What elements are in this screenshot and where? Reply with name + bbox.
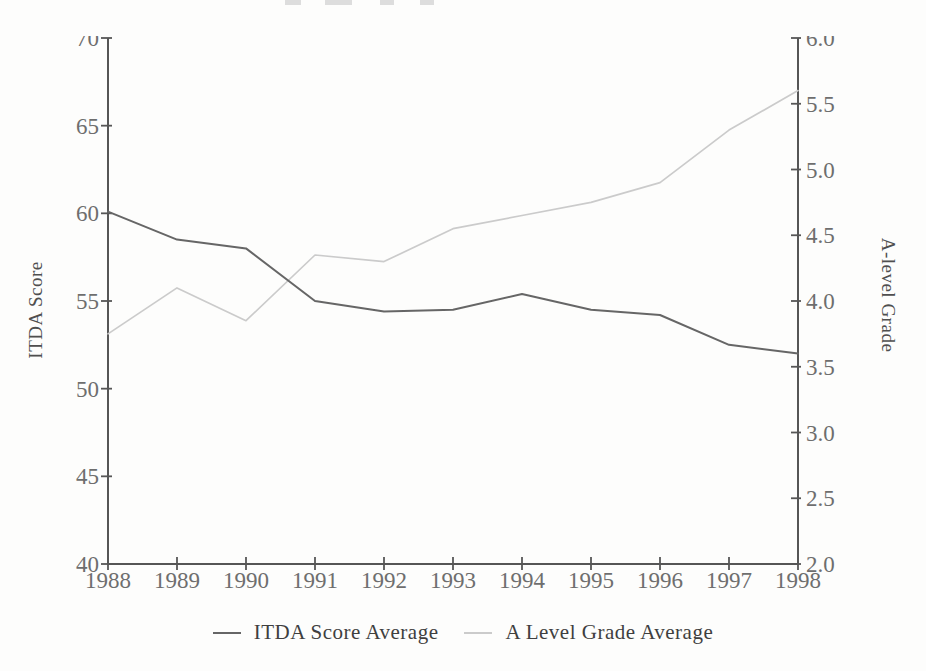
legend-entry-alevel: A Level Grade Average: [464, 620, 713, 645]
x-axis-tick-label: 1997: [706, 568, 752, 593]
right-axis-tick-label: 5.0: [806, 158, 835, 183]
right-axis-tick-label: 3.5: [806, 355, 835, 380]
left-axis-tick-label: 55: [76, 289, 99, 314]
itda-line-swatch: [213, 632, 241, 634]
right-axis-tick-label: 4.5: [806, 223, 835, 248]
x-axis-tick-label: 1995: [568, 568, 614, 593]
chart-legend: ITDA Score Average A Level Grade Average: [0, 620, 926, 645]
x-axis-tick-label: 1989: [154, 568, 200, 593]
dual-axis-line-chart: 706560555045406.05.55.04.54.03.53.02.52.…: [0, 0, 926, 671]
right-axis-tick-label: 2.5: [806, 486, 835, 511]
left-axis-tick-label: 70: [76, 26, 99, 51]
a-level-grade-series-line: [108, 91, 798, 334]
x-axis-tick-label: 1991: [292, 568, 338, 593]
x-axis-tick-label: 1988: [85, 568, 131, 593]
legend-label-itda: ITDA Score Average: [254, 620, 439, 645]
x-axis-tick-label: 1998: [775, 568, 821, 593]
left-axis-tick-label: 65: [76, 114, 99, 139]
left-axis-title: ITDA Score: [25, 261, 47, 358]
right-axis-tick-label: 5.5: [806, 92, 835, 117]
legend-entry-itda: ITDA Score Average: [213, 620, 439, 645]
legend-label-alevel: A Level Grade Average: [505, 620, 713, 645]
x-axis-tick-label: 1993: [430, 568, 476, 593]
left-axis-tick-label: 45: [76, 464, 99, 489]
left-axis-tick-label: 60: [76, 201, 99, 226]
left-axis-tick-label: 50: [76, 377, 99, 402]
x-axis-tick-label: 1996: [637, 568, 683, 593]
x-axis-tick-label: 1994: [499, 568, 546, 593]
x-axis-tick-label: 1992: [361, 568, 407, 593]
right-axis-title: A-level Grade: [877, 238, 899, 353]
scanned-chart-figure: 706560555045406.05.55.04.54.03.53.02.52.…: [0, 0, 926, 671]
right-axis-tick-label: 4.0: [806, 289, 835, 314]
itda-score-series-line: [108, 212, 798, 354]
x-axis-tick-label: 1990: [223, 568, 269, 593]
alevel-line-swatch: [464, 632, 492, 634]
right-axis-tick-label: 3.0: [806, 421, 835, 446]
right-axis-tick-label: 6.0: [806, 26, 835, 51]
